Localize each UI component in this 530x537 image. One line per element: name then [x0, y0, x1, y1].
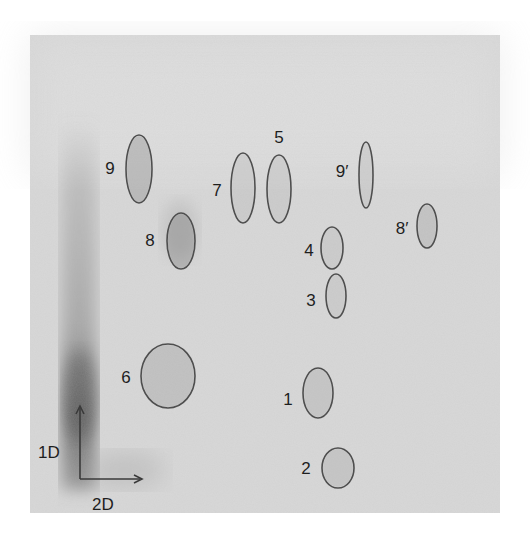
spot-density: [168, 214, 194, 268]
spot-density: [360, 143, 372, 207]
spot-density: [418, 205, 436, 247]
axis-label-2d: 2D: [92, 495, 114, 514]
spot-label: 5: [274, 128, 283, 147]
spot-label: 9: [105, 159, 114, 178]
spot-density: [304, 369, 332, 417]
spot-density: [322, 228, 342, 268]
spot-label: 6: [121, 368, 130, 387]
axis-label-1d: 1D: [38, 443, 60, 462]
spot-density: [232, 154, 254, 222]
spot-label: 2: [301, 459, 310, 478]
film-grain: [30, 35, 500, 513]
spot-label: 9′: [336, 162, 349, 181]
tlc-figure: 1234567898′9′ 1D 2D: [0, 0, 530, 537]
spot-density: [323, 449, 353, 487]
spot-density: [127, 136, 151, 202]
spot-label: 7: [212, 181, 221, 200]
spot-label: 4: [304, 241, 313, 260]
spot-label: 1: [283, 390, 292, 409]
spot-density: [142, 345, 194, 407]
spot-label: 3: [306, 291, 315, 310]
spot-label: 8: [145, 231, 154, 250]
spot-density: [327, 275, 345, 317]
spot-label: 8′: [396, 219, 409, 238]
spot-density: [268, 156, 290, 222]
